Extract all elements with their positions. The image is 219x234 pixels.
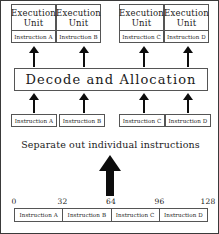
packed-instruction-word-bar: Instruction AInstruction BInstruction CI…: [14, 208, 208, 222]
arrow-shaft: [83, 52, 85, 67]
axis-tick-label: 64: [106, 197, 116, 206]
execution-unit-instruction-label: Instruction C: [120, 31, 163, 42]
separated-instruction-chip: Instruction C: [119, 114, 165, 127]
execution-unit-title-line2: Unit: [24, 18, 44, 28]
packed-instruction-cell: Instruction B: [63, 209, 111, 221]
packed-instruction-cell: Instruction C: [112, 209, 160, 221]
execution-unit-title: ExecutionUnit: [57, 5, 100, 30]
separate-out-caption: Separate out individual instructions: [1, 139, 219, 150]
arrow-up-icon: [139, 93, 150, 113]
arrow-up-icon: [79, 93, 90, 113]
axis-tick-label: 32: [58, 197, 68, 206]
execution-unit-instruction-label: Instruction D: [165, 31, 208, 42]
arrow-shaft: [187, 99, 189, 113]
execution-unit-instruction-label: Instruction B: [57, 31, 100, 42]
packed-instruction-cell: Instruction A: [15, 209, 63, 221]
axis-tick-label: 96: [155, 197, 165, 206]
execution-unit-title: ExecutionUnit: [120, 5, 163, 30]
arrow-up-icon: [183, 93, 194, 113]
packed-instruction-cell: Instruction D: [160, 209, 207, 221]
execution-unit-box: ExecutionUnitInstruction A: [11, 4, 56, 43]
arrow-shaft: [106, 169, 114, 196]
execution-unit-title: ExecutionUnit: [12, 5, 55, 30]
arrow-up-icon: [29, 93, 40, 113]
execution-unit-instruction-label: Instruction A: [12, 31, 55, 42]
execution-unit-title-line1: Execution: [164, 8, 209, 18]
axis-tick-label: 0: [12, 197, 17, 206]
bit-axis-labels: 0326496128: [14, 197, 208, 207]
decode-and-allocation-label: Decode and Allocation: [25, 72, 196, 87]
execution-unit-title-line2: Unit: [132, 18, 152, 28]
execution-unit-title-line2: Unit: [177, 18, 197, 28]
arrow-shaft: [33, 52, 35, 67]
arrow-up-icon: [29, 46, 40, 67]
execution-unit-box: ExecutionUnitInstruction D: [164, 4, 209, 43]
separate-out-arrow-icon: [99, 155, 121, 196]
decode-and-allocation-box: Decode and Allocation: [14, 68, 208, 91]
arrow-shaft: [83, 99, 85, 113]
arrow-shaft: [143, 99, 145, 113]
execution-unit-box: ExecutionUnitInstruction B: [56, 4, 101, 43]
instruction-decode-diagram: ExecutionUnitInstruction AExecutionUnitI…: [0, 0, 219, 234]
separated-instruction-chip: Instruction A: [11, 114, 57, 127]
separated-instruction-chip: Instruction B: [59, 114, 105, 127]
execution-unit-title: ExecutionUnit: [165, 5, 208, 30]
arrow-shaft: [143, 52, 145, 67]
execution-unit-box: ExecutionUnitInstruction C: [119, 4, 164, 43]
arrow-up-icon: [139, 46, 150, 67]
execution-unit-title-line1: Execution: [56, 8, 101, 18]
arrow-shaft: [33, 99, 35, 113]
arrow-shaft: [187, 52, 189, 67]
execution-unit-title-line1: Execution: [11, 8, 56, 18]
arrow-up-icon: [183, 46, 194, 67]
axis-tick-label: 128: [201, 197, 216, 206]
separated-instruction-chip: Instruction D: [165, 114, 211, 127]
execution-unit-title-line1: Execution: [119, 8, 164, 18]
execution-unit-title-line2: Unit: [69, 18, 89, 28]
arrow-up-icon: [79, 46, 90, 67]
